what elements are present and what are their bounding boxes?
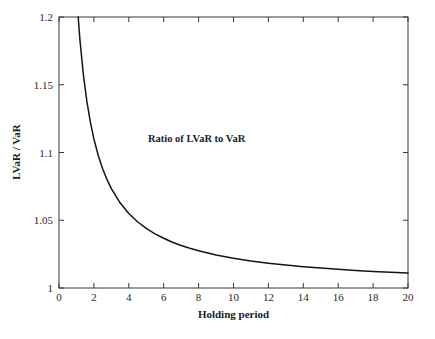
y-tick-label: 1.15 <box>34 79 54 91</box>
y-tick-label: 1.05 <box>34 214 54 226</box>
x-tick-label: 10 <box>228 291 240 303</box>
ratio-lvar-to-var-line-chart: 02468101214161820 11.051.11.151.2 Ratio … <box>0 0 435 339</box>
x-axis-title: Holding period <box>198 308 269 320</box>
chart-figure: 02468101214161820 11.051.11.151.2 Ratio … <box>0 0 435 339</box>
x-tick-label: 18 <box>368 291 380 303</box>
x-tick-label: 12 <box>263 291 274 303</box>
x-tick-label: 6 <box>161 291 167 303</box>
curve-annotation-label: Ratio of LVaR to VaR <box>148 133 246 144</box>
y-tick-label: 1.1 <box>39 147 53 159</box>
y-tick-label: 1 <box>48 282 54 294</box>
y-axis-title: LVaR / VaR <box>10 123 22 179</box>
x-tick-label: 8 <box>196 291 202 303</box>
x-tick-label: 14 <box>298 291 310 303</box>
x-tick-label: 20 <box>403 291 415 303</box>
y-tick-label: 1.2 <box>39 11 53 23</box>
x-tick-label: 2 <box>91 291 97 303</box>
x-tick-label: 16 <box>333 291 345 303</box>
x-tick-label: 0 <box>56 291 62 303</box>
x-tick-label: 4 <box>126 291 132 303</box>
